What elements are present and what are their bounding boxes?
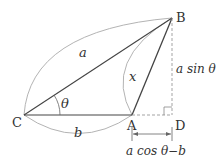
point-label-A: A <box>126 118 137 133</box>
label-side-x: x <box>129 69 137 84</box>
side-AB <box>132 18 172 115</box>
point-label-D: D <box>175 118 185 133</box>
label-side-b: b <box>74 125 82 140</box>
arc-side-x <box>123 18 172 115</box>
point-label-B: B <box>176 10 186 25</box>
label-angle-theta: θ <box>61 96 69 111</box>
triangle-diagram: C A D B a b x θ a sin θ a cos θ−b <box>0 0 218 164</box>
dim-arrowhead-right <box>166 132 171 136</box>
label-height: a sin θ <box>176 62 217 76</box>
angle-arc-theta <box>54 95 60 115</box>
point-label-C: C <box>12 115 22 130</box>
label-base-ext: a cos θ−b <box>126 144 186 158</box>
right-angle-mark <box>164 107 172 115</box>
label-side-a: a <box>79 45 87 60</box>
